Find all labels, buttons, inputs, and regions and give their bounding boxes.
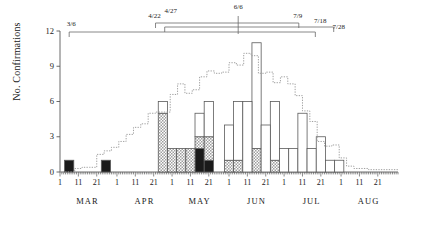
x-axis-month-label: AUG — [347, 196, 391, 206]
bar-segment-open-white — [224, 125, 233, 160]
bar-segment-open-white — [307, 149, 316, 173]
bar-segment-solid-black — [101, 160, 110, 172]
bar-segment-open-white — [252, 43, 261, 149]
x-tick-label: 21 — [89, 178, 105, 187]
bar-segment-hatched-gray — [234, 160, 243, 172]
bracket-label-3-6: 3/6 — [61, 20, 81, 28]
y-tick-label: 0 — [38, 167, 54, 177]
bar-segment-open-white — [270, 102, 279, 161]
x-tick-label: 11 — [351, 178, 367, 187]
y-tick-label: 12 — [38, 26, 54, 36]
bar-segment-solid-black — [204, 160, 213, 172]
bracket-inner — [165, 27, 334, 32]
bar-group — [65, 43, 344, 172]
x-tick-label: 11 — [182, 178, 198, 187]
x-tick-label: 21 — [258, 178, 274, 187]
bracket-label-4-27: 4/27 — [160, 7, 182, 15]
bar-segment-hatched-gray — [158, 113, 167, 172]
bar-segment-open-white — [158, 102, 167, 114]
bar-segment-open-white — [234, 102, 243, 161]
x-tick-label: 1 — [221, 178, 237, 187]
bar-segment-open-white — [316, 137, 325, 172]
x-axis-month-label: APR — [123, 196, 167, 206]
bar-segment-hatched-gray — [186, 149, 195, 173]
bracket-label-7-9: 7/9 — [287, 12, 309, 20]
bar-segment-open-white — [261, 125, 270, 172]
bar-segment-hatched-gray — [195, 137, 204, 149]
bar-segment-open-white — [325, 160, 334, 172]
bar-segment-hatched-gray — [167, 149, 176, 173]
epidemic-curve-chart: No. Confirmations 03691211121111211112 — [0, 0, 423, 225]
bar-segment-open-white — [335, 160, 344, 172]
x-tick-label: 11 — [70, 178, 86, 187]
bracket-outer — [69, 32, 315, 37]
bar-segment-solid-black — [195, 149, 204, 173]
x-tick-label: 21 — [370, 178, 386, 187]
x-tick-label: 11 — [294, 178, 310, 187]
x-tick-label: 21 — [146, 178, 162, 187]
bar-segment-open-white — [289, 149, 298, 173]
y-tick-label: 9 — [38, 61, 54, 71]
bar-segment-hatched-gray — [224, 160, 233, 172]
x-axis-month-label: MAR — [66, 196, 110, 206]
bar-segment-open-white — [280, 149, 289, 173]
y-tick-label: 3 — [38, 131, 54, 141]
y-tick-label: 6 — [38, 96, 54, 106]
bar-segment-solid-black — [65, 160, 74, 172]
x-tick-label: 11 — [239, 178, 255, 187]
x-tick-label: 21 — [313, 178, 329, 187]
x-axis-month-label: JUL — [290, 196, 334, 206]
bar-segment-hatched-gray — [177, 149, 186, 173]
x-axis-month-label: JUN — [235, 196, 279, 206]
bar-segment-open-white — [243, 102, 252, 173]
bar-segment-open-white — [204, 102, 213, 137]
chart-canvas — [0, 0, 423, 225]
x-tick-label: 1 — [109, 178, 125, 187]
bar-segment-hatched-gray — [252, 149, 261, 173]
bar-segment-open-white — [298, 113, 307, 172]
bracket-label-7-28: 7/28 — [328, 23, 350, 31]
bracket-label-6-6: 6/6 — [227, 3, 249, 11]
x-tick-label: 1 — [52, 178, 68, 187]
x-tick-label: 11 — [127, 178, 143, 187]
x-tick-group — [60, 172, 398, 177]
x-tick-label: 1 — [333, 178, 349, 187]
bar-segment-hatched-gray — [204, 137, 213, 161]
x-axis-month-label: MAY — [178, 196, 222, 206]
x-tick-label: 1 — [164, 178, 180, 187]
bar-segment-open-white — [195, 113, 204, 137]
y-tick-group — [57, 31, 61, 172]
x-tick-label: 1 — [276, 178, 292, 187]
bar-segment-hatched-gray — [270, 160, 279, 172]
x-tick-label: 21 — [201, 178, 217, 187]
